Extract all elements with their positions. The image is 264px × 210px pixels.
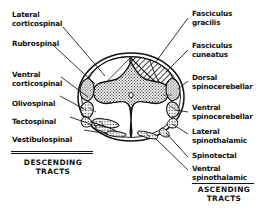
label-line-2: spinothalamic bbox=[192, 173, 247, 182]
label-dorsal-spinocerebellar: Dorsal spinocerebellar bbox=[192, 74, 253, 91]
descending-divider-rule bbox=[11, 151, 93, 154]
label-fasciculus-gracilis: Fasciculus gracilis bbox=[192, 10, 232, 27]
label-fasciculus-cuneatus: Fasciculus cuneatus bbox=[192, 42, 232, 59]
label-line-1: Rubrospinal bbox=[12, 39, 59, 48]
label-line-1: Vestibulospinal bbox=[12, 135, 72, 144]
label-lateral-spinothalamic: Lateral spinothalamic bbox=[192, 128, 247, 145]
descending-title-line-1: DESCENDING bbox=[24, 158, 82, 167]
label-rubrospinal: Rubrospinal bbox=[12, 40, 59, 49]
label-line-2: spinothalamic bbox=[192, 136, 247, 145]
label-line-2: corticospinal bbox=[12, 19, 62, 28]
ascending-divider-rule bbox=[192, 183, 254, 184]
label-line-2: gracilis bbox=[192, 18, 220, 27]
ascending-title-line-2: TRACTS bbox=[190, 194, 258, 203]
label-lateral-corticospinal: Lateral corticospinal bbox=[12, 11, 62, 28]
ascending-tracts-title: ASCENDING TRACTS bbox=[190, 185, 258, 203]
label-line-2: corticospinal bbox=[12, 79, 62, 88]
label-line-2: spinocerebellar bbox=[192, 82, 253, 91]
descending-tracts-title: DESCENDING TRACTS bbox=[11, 158, 95, 176]
label-line-2: spinocerebellar bbox=[192, 112, 253, 121]
ascending-title-line-1: ASCENDING bbox=[198, 185, 250, 194]
label-vestibulospinal: Vestibulospinal bbox=[12, 136, 72, 145]
label-spinotectal: Spinotectal bbox=[192, 152, 237, 161]
label-line-2: cuneatus bbox=[192, 50, 228, 59]
label-line-1: Olivospinal bbox=[12, 99, 55, 108]
label-line-1: Spinotectal bbox=[192, 151, 237, 160]
label-olivospinal: Olivospinal bbox=[12, 100, 55, 109]
label-line-1: Tectospinal bbox=[12, 117, 56, 126]
label-ventral-spinocerebellar: Ventral spinocerebellar bbox=[192, 104, 253, 121]
label-ventral-spinothalamic: Ventral spinothalamic bbox=[192, 165, 247, 182]
spinal-cord-tracts-figure: Lateral corticospinal Rubrospinal Ventra… bbox=[0, 0, 264, 210]
label-tectospinal: Tectospinal bbox=[12, 118, 56, 127]
label-ventral-corticospinal: Ventral corticospinal bbox=[12, 71, 62, 88]
descending-title-line-2: TRACTS bbox=[11, 167, 95, 176]
